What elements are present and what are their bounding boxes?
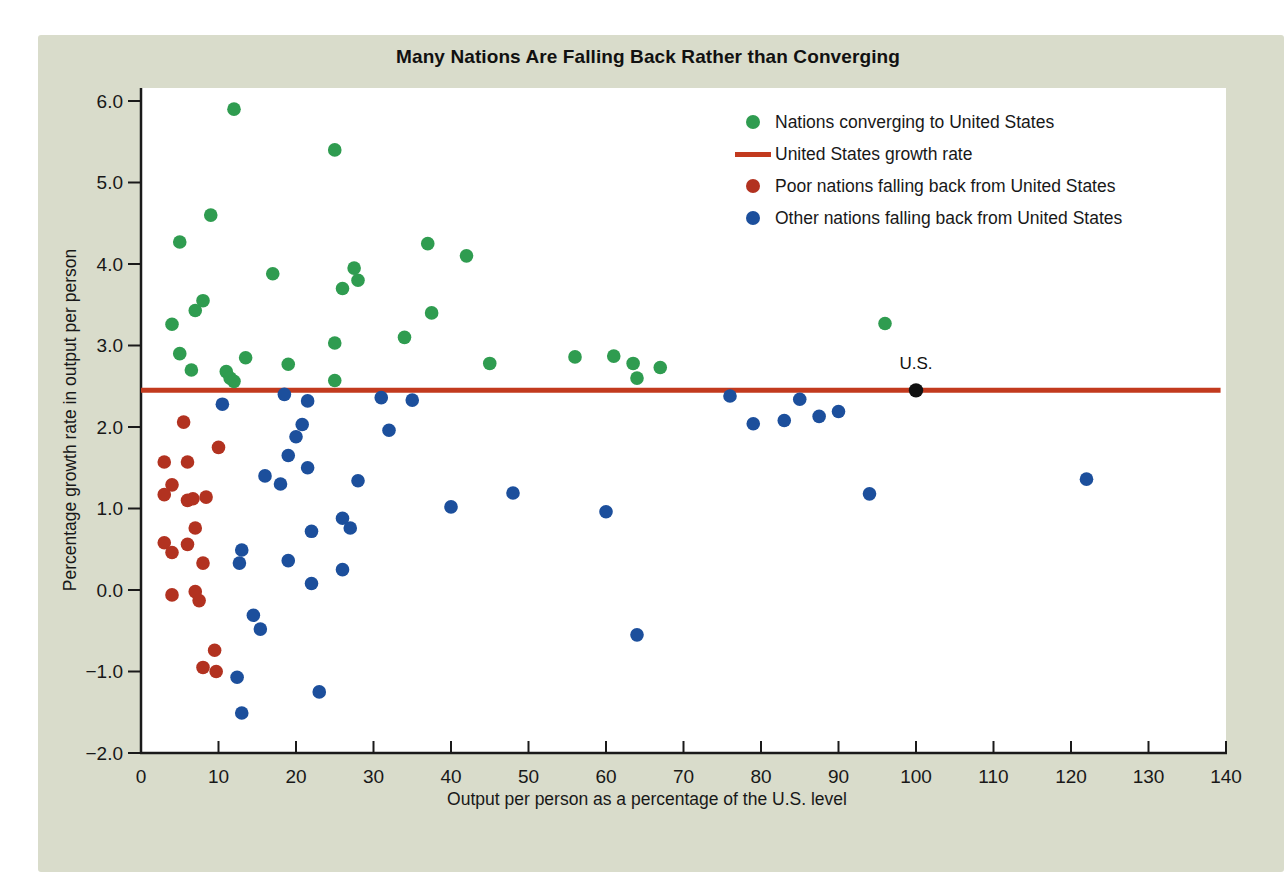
scatter-point	[196, 661, 210, 675]
y-tick-label: −1.0	[85, 661, 123, 682]
scatter-point	[266, 267, 280, 281]
scatter-point	[421, 237, 435, 251]
scatter-point	[506, 486, 520, 500]
scatter-point	[382, 423, 396, 437]
x-tick-label: 50	[518, 766, 539, 787]
scatter-point	[653, 361, 667, 375]
x-tick-label: 10	[208, 766, 229, 787]
x-tick-label: 30	[363, 766, 384, 787]
scatter-point	[301, 461, 315, 475]
scatter-point	[336, 282, 350, 296]
scatter-point	[186, 492, 200, 506]
legend-item-poor-falling-back: Poor nations falling back from United St…	[735, 170, 1122, 202]
scatter-point	[425, 306, 439, 320]
x-tick-label: 110	[978, 766, 1008, 787]
x-tick-label: 80	[750, 766, 771, 787]
scatter-point	[777, 414, 791, 428]
legend-item-label: Nations converging to United States	[775, 112, 1054, 133]
legend-item-label: Other nations falling back from United S…	[775, 208, 1122, 229]
legend-item-label: Poor nations falling back from United St…	[775, 176, 1115, 197]
scatter-point	[444, 500, 458, 514]
scatter-point	[212, 441, 226, 455]
legend-item-us-growth-rate: United States growth rate	[735, 138, 1122, 170]
x-tick-label: 40	[440, 766, 461, 787]
scatter-point	[181, 455, 195, 469]
x-tick-label: 90	[828, 766, 849, 787]
scatter-point	[227, 102, 241, 116]
scatter-point	[196, 556, 210, 570]
scatter-point	[165, 318, 179, 332]
us-point	[909, 383, 923, 397]
scatter-point	[177, 415, 191, 429]
x-tick-label: 0	[136, 766, 147, 787]
scatter-point	[188, 521, 202, 535]
x-axis-title: Output per person as a percentage of the…	[7, 789, 1287, 810]
x-tick-label: 100	[900, 766, 932, 787]
scatter-point	[351, 274, 365, 288]
scatter-point	[208, 644, 222, 658]
legend-item-label: United States growth rate	[775, 144, 972, 165]
scatter-point	[181, 538, 195, 552]
scatter-point	[199, 490, 213, 504]
scatter-point	[483, 357, 497, 371]
x-tick-label: 20	[285, 766, 306, 787]
scatter-point	[157, 455, 171, 469]
scatter-point	[630, 628, 644, 642]
y-tick-label: 4.0	[97, 254, 123, 275]
x-tick-label: 140	[1210, 766, 1242, 787]
scatter-point	[793, 392, 807, 406]
scatter-point	[312, 685, 326, 699]
scatter-point	[630, 371, 644, 385]
scatter-point	[239, 351, 253, 365]
legend: Nations converging to United States Unit…	[735, 106, 1122, 234]
scatter-point	[165, 588, 179, 602]
scatter-point	[301, 394, 315, 408]
scatter-point	[281, 554, 295, 568]
y-tick-label: 0.0	[97, 580, 123, 601]
scatter-point	[233, 556, 247, 570]
y-tick-label: 1.0	[97, 498, 123, 519]
y-axis-title: Percentage growth rate in output per per…	[60, 210, 82, 630]
scatter-point	[878, 317, 892, 331]
y-tick-label: 3.0	[97, 335, 123, 356]
scatter-point	[289, 430, 303, 444]
y-tick-label: 6.0	[97, 91, 123, 112]
scatter-point	[607, 349, 621, 363]
scatter-point	[157, 488, 171, 502]
scatter-point	[165, 546, 179, 560]
scatter-point	[274, 477, 288, 491]
scatter-point	[235, 706, 249, 720]
scatter-point	[173, 347, 187, 361]
scatter-point	[185, 363, 199, 377]
x-tick-label: 70	[673, 766, 694, 787]
scatter-point	[216, 397, 230, 411]
scatter-point	[254, 622, 268, 636]
scatter-point	[281, 357, 295, 371]
us-point-label: U.S.	[899, 354, 932, 374]
legend-item-other-falling-back: Other nations falling back from United S…	[735, 202, 1122, 234]
scatter-point	[278, 388, 292, 402]
scatter-point	[812, 410, 826, 424]
blue-dot-icon	[735, 211, 771, 225]
scatter-point	[227, 375, 241, 389]
scatter-point	[209, 665, 223, 679]
scatter-point	[351, 474, 365, 488]
scatter-point	[204, 208, 218, 222]
y-tick-label: −2.0	[85, 743, 123, 764]
scatter-point	[328, 336, 342, 350]
scatter-point	[230, 670, 244, 684]
scatter-point	[405, 393, 419, 407]
scatter-point	[281, 449, 295, 463]
scatter-point	[328, 374, 342, 388]
scatter-point	[173, 235, 187, 249]
scatter-point	[1080, 472, 1094, 486]
scatter-point	[235, 543, 249, 557]
scatter-point	[599, 505, 613, 519]
scatter-point	[305, 577, 319, 591]
x-tick-label: 60	[595, 766, 616, 787]
scatter-point	[374, 391, 388, 405]
scatter-point	[247, 608, 261, 622]
scatter-point	[328, 143, 342, 157]
red-line-icon	[735, 152, 771, 157]
scatter-point	[343, 521, 357, 535]
